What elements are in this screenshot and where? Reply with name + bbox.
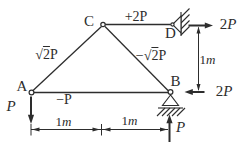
node-label-B-text: B xyxy=(170,72,180,88)
diagram-drawing xyxy=(0,0,247,152)
node-label-D: D xyxy=(165,25,176,40)
load-label-B-up: P xyxy=(176,120,185,135)
load-value: 2 xyxy=(216,83,224,99)
dim-arrowhead-icon xyxy=(197,84,201,91)
dim-arrowhead-icon xyxy=(160,128,168,132)
member-force-CB: −√2P xyxy=(136,49,166,63)
dim-arrowhead-icon xyxy=(197,27,201,34)
force-symbol: P xyxy=(64,92,72,107)
load-label-B-left: 2P xyxy=(216,84,233,99)
node-label-C-text: C xyxy=(84,13,94,29)
force-symbol: P xyxy=(158,48,166,63)
radical-sign: √ xyxy=(144,48,152,63)
arrowhead-left-icon xyxy=(185,89,193,95)
node-label-A: A xyxy=(17,78,28,93)
force-sign: − xyxy=(56,92,64,107)
dim-unit: m xyxy=(62,113,71,128)
force-sign: − xyxy=(136,48,144,63)
joint-C xyxy=(101,22,105,26)
arrowhead-right-icon xyxy=(205,23,213,29)
load-symbol: P xyxy=(223,83,232,99)
joint-A xyxy=(29,90,34,95)
force-symbol: P xyxy=(50,47,58,62)
radicand: 2 xyxy=(151,48,158,63)
force-symbol: 2P xyxy=(133,9,148,24)
node-label-B: B xyxy=(170,73,180,88)
dim-unit: m xyxy=(128,113,137,128)
member-force-AB: −P xyxy=(56,93,72,107)
truss-diagram: A B C D √2P −√2P +2P −P P 2P 2P P 1m 1m … xyxy=(0,0,247,152)
node-label-C: C xyxy=(84,14,94,29)
dim-arrowhead-icon xyxy=(93,128,101,132)
node-label-D-text: D xyxy=(165,24,176,40)
radicand: 2 xyxy=(43,47,50,62)
force-sign: + xyxy=(125,9,133,24)
dim-label-bottom-right: 1m xyxy=(122,114,138,127)
dim-arrowhead-icon xyxy=(32,128,40,132)
support-B xyxy=(157,95,185,116)
arrowhead-down-icon xyxy=(28,115,34,124)
dim-unit: m xyxy=(206,52,215,67)
load-symbol: P xyxy=(6,98,15,114)
load-label-A-down: P xyxy=(6,99,15,114)
dim-label-bottom-left: 1m xyxy=(56,114,72,127)
load-symbol: P xyxy=(227,15,236,31)
dim-label-right-vertical: 1m xyxy=(200,53,216,66)
load-label-D-right: 2P xyxy=(220,16,237,31)
dim-arrowhead-icon xyxy=(103,128,111,132)
pin-triangle-B xyxy=(163,95,179,106)
load-value: 2 xyxy=(220,15,228,31)
member-force-CD: +2P xyxy=(125,10,148,24)
member-force-AC: √2P xyxy=(35,48,57,62)
joint-B xyxy=(168,90,173,95)
radical-sign: √ xyxy=(35,47,43,62)
load-symbol: P xyxy=(176,119,185,135)
node-label-A-text: A xyxy=(17,77,28,93)
